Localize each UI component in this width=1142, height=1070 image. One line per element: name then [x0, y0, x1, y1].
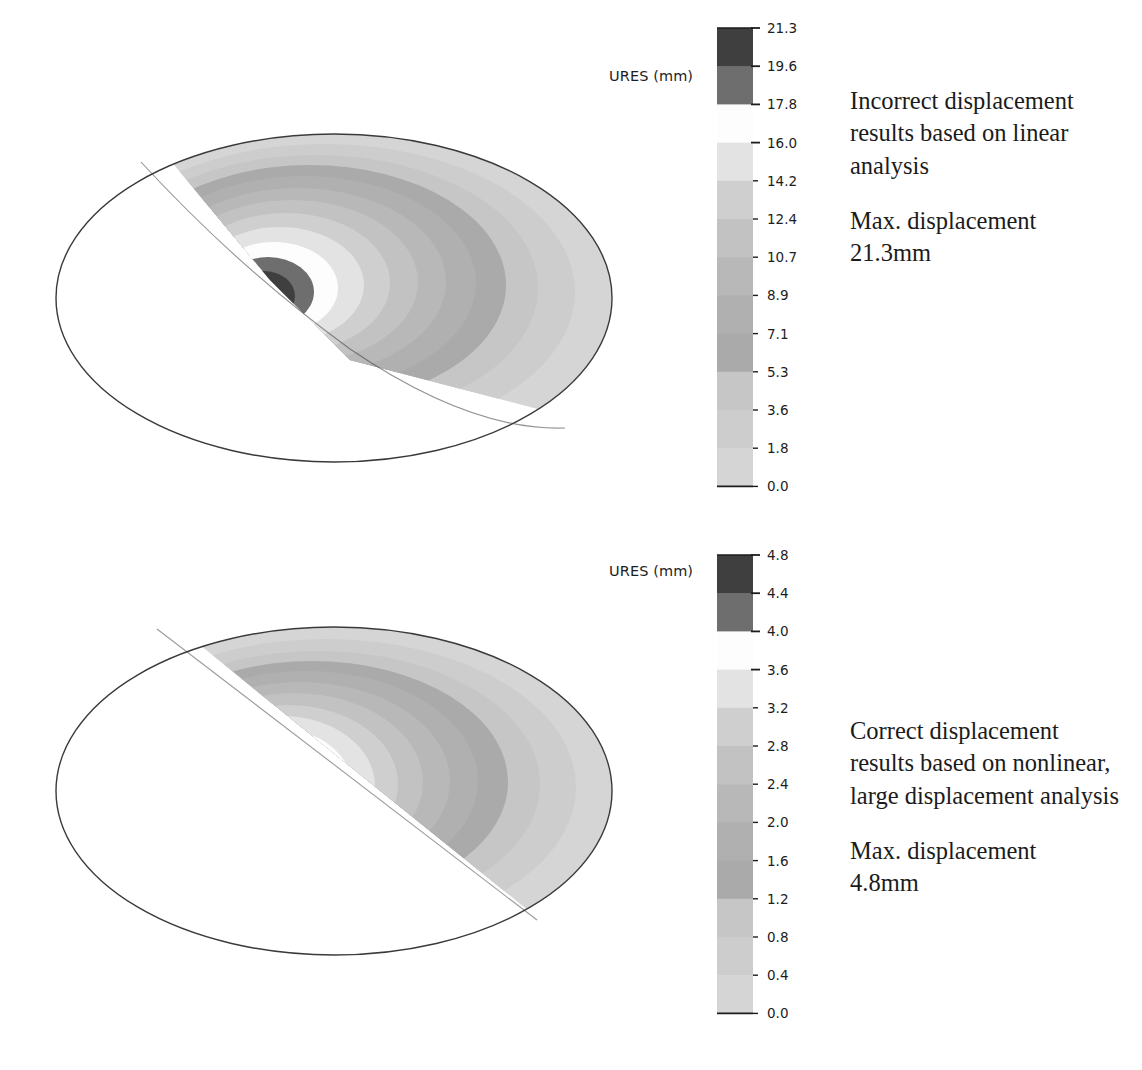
- colorbar-tick-label: 12.4: [767, 211, 797, 227]
- colorbar-tick-label: 1.8: [767, 440, 788, 456]
- colorbar-band: [717, 219, 753, 258]
- colorbar-band: [717, 143, 753, 182]
- colorbar-tick-label: 5.3: [767, 364, 788, 380]
- figure-panel-top: URES (mm) 21.319.617.816.014.212.410.78.…: [0, 0, 1142, 535]
- colorbar-band: [717, 631, 753, 670]
- colorbar-top[interactable]: 21.319.617.816.014.212.410.78.97.15.33.6…: [711, 18, 831, 518]
- colorbar-band: [717, 670, 753, 709]
- colorbar-tick-label: 17.8: [767, 96, 797, 112]
- colorbar-tick-label: 4.4: [767, 585, 788, 601]
- annotation-top-max-value: 21.3mm: [850, 237, 1120, 269]
- colorbar-tick-label: 2.4: [767, 776, 788, 792]
- colorbar-bottom[interactable]: 4.84.44.03.63.22.82.42.01.61.20.80.40.0: [711, 545, 831, 1045]
- colorbar-tick-label: 4.0: [767, 623, 788, 639]
- colorbar-band: [717, 822, 753, 861]
- colorbar-tick-label: 3.2: [767, 700, 788, 716]
- colorbar-title-bottom: URES (mm): [609, 563, 693, 579]
- colorbar-tick-label: 0.0: [767, 478, 788, 494]
- colorbar-band: [717, 66, 753, 105]
- colorbar-band: [717, 899, 753, 938]
- colorbar-tick-label: 0.0: [767, 1005, 788, 1021]
- figure-panel-bottom: URES (mm) 4.84.44.03.63.22.82.42.01.61.2…: [0, 535, 1142, 1070]
- colorbar-band: [717, 975, 753, 1014]
- colorbar-band: [717, 593, 753, 632]
- colorbar-tick-label: 0.8: [767, 929, 788, 945]
- colorbar-band: [717, 555, 753, 594]
- colorbar-tick-label: 16.0: [767, 135, 797, 151]
- colorbar-bottom-svg: 4.84.44.03.63.22.82.42.01.61.20.80.40.0: [711, 545, 831, 1045]
- colorbar-tick-label: 10.7: [767, 249, 797, 265]
- colorbar-band: [717, 708, 753, 747]
- colorbar-band: [717, 746, 753, 785]
- colorbar-band: [717, 784, 753, 823]
- colorbar-band: [717, 410, 753, 449]
- colorbar-tick-label: 1.2: [767, 891, 788, 907]
- annotation-bottom-spacer: [850, 812, 1120, 835]
- colorbar-tick-label: 21.3: [767, 20, 797, 36]
- annotation-bottom-max-label: Max. displacement: [850, 835, 1120, 867]
- contour-plot-bottom-svg: [20, 535, 660, 1055]
- contour-plot-top: [20, 0, 660, 520]
- colorbar-tick-label: 3.6: [767, 662, 788, 678]
- colorbar-tick-label: 8.9: [767, 287, 788, 303]
- colorbar-band: [717, 181, 753, 220]
- annotation-top: Incorrect displacement results based on …: [850, 85, 1120, 270]
- colorbar-tick-label: 4.8: [767, 547, 788, 563]
- colorbar-band: [717, 295, 753, 334]
- colorbar-band: [717, 28, 753, 67]
- legend-bottom: URES (mm) 4.84.44.03.63.22.82.42.01.61.2…: [600, 545, 830, 1065]
- contour-bands-top: [56, 134, 612, 462]
- colorbar-tick-label: 14.2: [767, 173, 797, 189]
- colorbar-band: [717, 861, 753, 900]
- annotation-top-max-label: Max. displacement: [850, 205, 1120, 237]
- colorbar-tick-label: 7.1: [767, 326, 788, 342]
- colorbar-tick-label: 1.6: [767, 853, 788, 869]
- annotation-top-spacer: [850, 182, 1120, 205]
- colorbar-band: [717, 334, 753, 373]
- colorbar-tick-label: 2.0: [767, 814, 788, 830]
- colorbar-tick-label: 0.4: [767, 967, 788, 983]
- annotation-bottom: Correct displacement results based on no…: [850, 715, 1120, 900]
- colorbar-band: [717, 104, 753, 143]
- legend-top: URES (mm) 21.319.617.816.014.212.410.78.…: [600, 10, 830, 530]
- colorbar-title-top: URES (mm): [609, 68, 693, 84]
- colorbar-band: [717, 448, 753, 487]
- annotation-bottom-description: Correct displacement results based on no…: [850, 715, 1120, 812]
- colorbar-band: [717, 372, 753, 411]
- colorbar-band: [717, 257, 753, 296]
- colorbar-band: [717, 937, 753, 976]
- colorbar-top-svg: 21.319.617.816.014.212.410.78.97.15.33.6…: [711, 18, 831, 518]
- colorbar-tick-label: 19.6: [767, 58, 797, 74]
- contour-plot-top-svg: [20, 0, 660, 520]
- colorbar-tick-label: 2.8: [767, 738, 788, 754]
- contour-plot-bottom: [20, 535, 660, 1055]
- colorbar-tick-label: 3.6: [767, 402, 788, 418]
- annotation-top-description: Incorrect displacement results based on …: [850, 85, 1120, 182]
- annotation-bottom-max-value: 4.8mm: [850, 867, 1120, 899]
- contour-bands-bottom: [56, 627, 612, 955]
